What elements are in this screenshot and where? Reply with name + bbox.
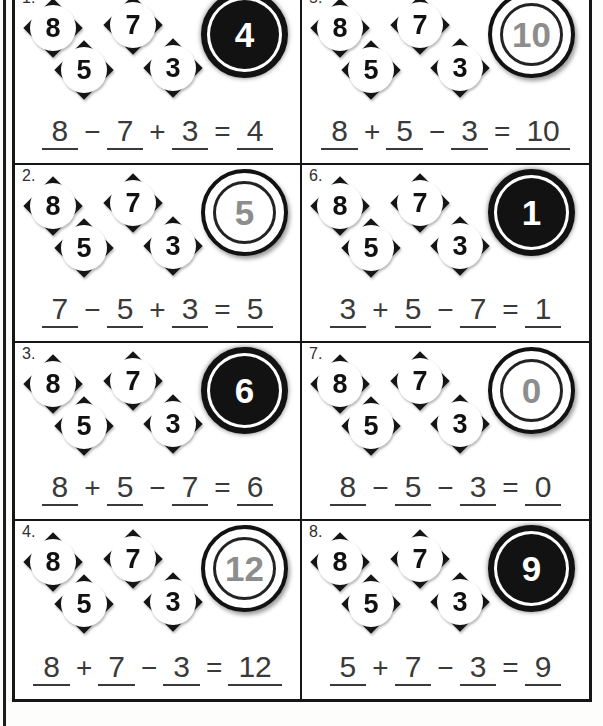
equation-blank: 7 [98,651,135,687]
problem-cell-5: 5. 8 7 5 3 10 8 + 5 − 3 = 10 [302,0,589,165]
diamond-5: 5 [54,396,114,456]
target-answer-value: 1 [522,195,541,230]
diamond-3: 3 [143,572,203,632]
equation-blank: 3 [172,293,209,329]
diamond-value: 3 [143,572,203,632]
equals-sign: = [494,117,510,146]
operator: − [437,473,453,502]
equation-blank: 8 [42,115,79,151]
equation-blank: 3 [460,471,497,507]
diamond-value: 5 [341,396,401,456]
diamond-value: 5 [341,574,401,634]
equation-blank: 7 [172,471,209,507]
target-answer-value: 5 [235,195,254,230]
equation-blank: 3 [172,115,209,151]
operator: − [149,473,165,502]
diamond-value: 5 [341,218,401,278]
equation-blank: 3 [330,293,367,329]
equation: 7 − 5 + 3 = 5 [15,293,300,329]
equation-blank: 8 [330,471,367,507]
operator: + [149,295,165,324]
equation-blank: 7 [460,293,497,329]
diamond-value: 5 [54,574,114,634]
operator: − [437,653,453,682]
target-answer-circle: 9 [488,525,575,612]
operator: + [372,295,388,324]
worksheet-page: 1. 8 7 5 3 4 8 − 7 + 3 = 4 5. 8 7 5 3 [0,0,603,726]
problem-cell-7: 7. 8 7 5 3 0 8 − 5 − 3 = 0 [302,343,589,521]
diamond-3: 3 [430,38,490,98]
target-answer-circle: 10 [488,0,575,78]
diamond-value: 5 [54,40,114,100]
diamond-3: 3 [143,216,203,276]
target-answer-circle: 6 [201,347,288,434]
equation-answer-blank: 1 [525,293,562,329]
diamond-value: 3 [430,38,490,98]
equation-blank: 3 [460,651,497,687]
target-answer-circle: 0 [488,347,575,434]
equation-blank: 7 [107,115,144,151]
equation-answer-blank: 12 [228,651,281,687]
operator: − [84,295,100,324]
target-answer-value: 4 [235,17,254,52]
equation-answer-blank: 9 [525,651,562,687]
equation-blank: 7 [42,293,79,329]
equation-answer-blank: 0 [525,471,562,507]
equation-answer-blank: 10 [516,115,569,151]
equation-blank: 8 [42,471,79,507]
equation-blank: 5 [386,115,423,151]
diamond-value: 3 [143,216,203,276]
operator: − [437,295,453,324]
diamond-5: 5 [54,574,114,634]
diamond-5: 5 [341,396,401,456]
equation: 8 + 5 − 7 = 6 [15,471,300,507]
equation: 8 + 5 − 3 = 10 [302,115,589,151]
equals-sign: = [214,473,230,502]
problem-cell-1: 1. 8 7 5 3 4 8 − 7 + 3 = 4 [15,0,302,165]
equation-answer-blank: 6 [237,471,274,507]
equation-answer-blank: 5 [237,293,274,329]
problem-cell-2: 2. 8 7 5 3 5 7 − 5 + 3 = 5 [15,165,302,343]
answer-circle-inner: 12 [213,537,276,600]
diamond-value: 5 [54,218,114,278]
target-answer-circle: 4 [201,0,288,78]
diamond-3: 3 [143,38,203,98]
equation: 3 + 5 − 7 = 1 [302,293,589,329]
target-answer-value: 6 [235,373,254,408]
problem-grid: 1. 8 7 5 3 4 8 − 7 + 3 = 4 5. 8 7 5 3 [12,0,592,702]
problem-cell-4: 4. 8 7 5 3 12 8 + 7 − 3 = 12 [15,521,302,699]
target-answer-circle: 1 [488,169,575,256]
diamond-value: 3 [430,394,490,454]
target-answer-circle: 12 [201,525,288,612]
equation-blank: 5 [330,651,367,687]
answer-circle-inner: 9 [497,534,566,603]
operator: + [149,117,165,146]
operator: + [364,117,380,146]
answer-circle-inner: 5 [213,181,276,244]
problem-cell-6: 6. 8 7 5 3 1 3 + 5 − 7 = 1 [302,165,589,343]
answer-circle-inner: 0 [500,359,563,422]
diamond-value: 3 [143,38,203,98]
operator: − [141,653,157,682]
equation-blank: 3 [451,115,488,151]
diamond-5: 5 [54,40,114,100]
target-answer-value: 0 [522,373,541,408]
answer-circle-inner: 1 [497,178,566,247]
equals-sign: = [502,295,518,324]
equation: 8 − 5 − 3 = 0 [302,471,589,507]
equation-blank: 5 [395,293,432,329]
operator: + [76,653,92,682]
equation-blank: 5 [395,471,432,507]
problem-cell-8: 8. 8 7 5 3 9 5 + 7 − 3 = 9 [302,521,589,699]
equation: 8 + 7 − 3 = 12 [15,651,300,687]
equation-blank: 8 [321,115,358,151]
operator: − [372,473,388,502]
equation-blank: 7 [395,651,432,687]
equation: 5 + 7 − 3 = 9 [302,651,589,687]
operator: − [429,117,445,146]
operator: + [84,473,100,502]
problem-cell-3: 3. 8 7 5 3 6 8 + 5 − 7 = 6 [15,343,302,521]
equation-blank: 5 [107,471,144,507]
operator: − [84,117,100,146]
diamond-3: 3 [430,394,490,454]
